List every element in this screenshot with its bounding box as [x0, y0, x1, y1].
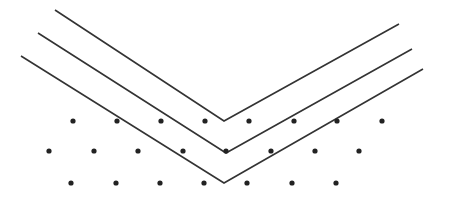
lattice-dot — [356, 148, 361, 153]
chevron-line-2 — [38, 33, 412, 153]
lattice-dot — [91, 148, 96, 153]
chevron-lattice-diagram — [0, 0, 450, 200]
lattice-dot — [312, 148, 317, 153]
lattice-dots — [46, 118, 384, 185]
lattice-dot — [223, 148, 228, 153]
lattice-dot — [157, 180, 162, 185]
chevron-lines — [21, 10, 423, 183]
lattice-dot — [289, 180, 294, 185]
lattice-dot — [291, 118, 296, 123]
chevron-line-1 — [55, 10, 399, 121]
lattice-dot — [201, 180, 206, 185]
lattice-dot — [333, 180, 338, 185]
lattice-dot — [70, 118, 75, 123]
lattice-dot — [180, 148, 185, 153]
lattice-dot — [379, 118, 384, 123]
lattice-dot — [113, 180, 118, 185]
lattice-dot — [244, 180, 249, 185]
lattice-dot — [68, 180, 73, 185]
lattice-dot — [202, 118, 207, 123]
lattice-dot — [334, 118, 339, 123]
lattice-dot — [135, 148, 140, 153]
lattice-dot — [114, 118, 119, 123]
lattice-dot — [268, 148, 273, 153]
lattice-dot — [46, 148, 51, 153]
lattice-dot — [158, 118, 163, 123]
lattice-dot — [246, 118, 251, 123]
